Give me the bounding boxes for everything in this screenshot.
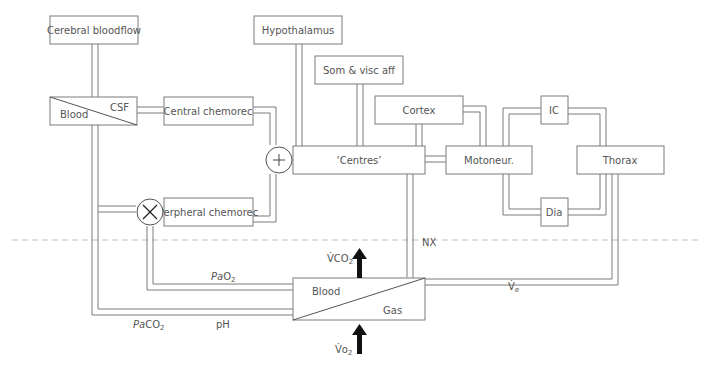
vco2-arrow-icon (352, 248, 367, 278)
box-hypothalamus: Hypothalamus (254, 16, 342, 44)
svg-text:Som & visc aff: Som & visc aff (323, 65, 396, 76)
box-cerebral-bloodflow: Cerebral bloodflow (47, 16, 141, 44)
box-central-chemorec: Central chemorec (164, 97, 253, 125)
svg-text:Thorax: Thorax (602, 155, 638, 166)
ve-label: V̇e (508, 280, 519, 294)
box-lung-blood-gas: Blood Gas (293, 278, 425, 320)
svg-text:Central chemorec: Central chemorec (164, 106, 253, 117)
box-som-visc-aff: Som & visc aff (315, 56, 403, 84)
vco2-label: V̇CO2 (327, 252, 353, 266)
box-peripheral-chemorec: Perpheral chemorec (158, 198, 258, 226)
multiply-junction (137, 199, 163, 225)
vo2-label: V̇o2 (335, 343, 352, 357)
svg-text:CSF: CSF (110, 102, 129, 113)
nx-label: NX (422, 237, 436, 248)
vo2-arrow-icon (352, 324, 367, 354)
ph-label: pH (216, 319, 230, 330)
svg-text:Hypothalamus: Hypothalamus (262, 25, 335, 36)
box-ic: IC (541, 96, 568, 124)
box-cortex: Cortex (375, 96, 463, 124)
box-dia: Dia (541, 198, 568, 226)
sum-junction (266, 147, 292, 173)
svg-text:Dia: Dia (546, 207, 563, 218)
svg-text:Motoneur.: Motoneur. (464, 155, 514, 166)
box-centres: ‘Centres’ (293, 146, 425, 174)
svg-text:Gas: Gas (383, 305, 402, 316)
connector-pipes (92, 44, 618, 315)
svg-text:Perpheral chemorec: Perpheral chemorec (158, 207, 258, 218)
svg-text:‘Centres’: ‘Centres’ (336, 155, 381, 166)
svg-text:Blood: Blood (312, 286, 340, 297)
box-thorax: Thorax (577, 146, 664, 174)
pao2-label: PaO2 (211, 271, 236, 284)
box-blood-csf: Blood CSF (50, 97, 137, 125)
svg-text:IC: IC (549, 105, 559, 116)
svg-text:Cortex: Cortex (402, 105, 435, 116)
svg-text:Blood: Blood (60, 109, 88, 120)
respiratory-control-diagram: Cerebral bloodflow Blood CSF Central che… (0, 0, 701, 368)
paco2-label: PaCO2 (133, 319, 165, 332)
svg-text:Cerebral bloodflow: Cerebral bloodflow (47, 25, 141, 36)
box-motoneur: Motoneur. (446, 146, 532, 174)
